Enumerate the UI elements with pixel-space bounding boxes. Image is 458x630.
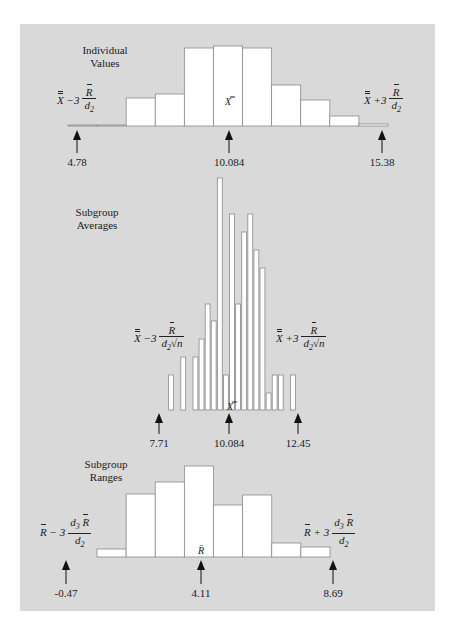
histogram-bar [272, 375, 277, 410]
individual-center-value: 10.084 [214, 156, 244, 168]
averages-lcl-value: 7.71 [149, 437, 168, 449]
histogram-bar [199, 339, 204, 410]
averages-lcl-formula: X −3Rd2√n [134, 324, 184, 354]
histogram-bar [266, 393, 271, 410]
ranges-ucl-value: 8.69 [323, 587, 342, 599]
histogram-bar [126, 98, 155, 126]
ranges-ucl-formula: R + 3d3 Rd2 [304, 516, 355, 551]
marker-arrow-icon [62, 560, 70, 570]
histogram-bar [243, 495, 272, 557]
histogram-bar [301, 100, 330, 126]
histogram-bar [169, 375, 174, 410]
histogram-bar [291, 375, 296, 410]
individual-lcl-value: 4.78 [67, 156, 86, 168]
histogram-bar [155, 94, 184, 126]
averages-ucl-formula: X +3Rd2√n [276, 324, 326, 354]
individual-lcl-formula: X −3Rd2 [57, 86, 96, 116]
ranges-lcl-formula: R − 3d3 Rd2 [40, 516, 91, 551]
histogram-bar [217, 178, 222, 410]
histogram-bar [184, 48, 213, 126]
histogram-bar [184, 466, 213, 557]
histogram-bar [230, 214, 235, 410]
individual-center-symbol: X̿ [225, 96, 231, 107]
histogram-bar [260, 268, 265, 410]
marker-arrow-icon [155, 413, 163, 423]
subgroup-averages-title: Subgroup Averages [57, 206, 137, 232]
ranges-center-symbol: R̄ [198, 545, 204, 556]
histogram-bar [278, 375, 283, 410]
ranges-center-value: 4.11 [192, 587, 211, 599]
histogram-bar [254, 250, 259, 410]
marker-arrow-icon [294, 413, 302, 423]
histogram-bar [213, 46, 242, 126]
individual-ucl-value: 15.38 [370, 156, 395, 168]
histogram-bar [236, 304, 241, 410]
averages-center-value: 10.084 [214, 437, 244, 449]
histogram-bar [205, 304, 210, 410]
histogram-bar [214, 505, 243, 557]
ranges-lcl-value: -0.47 [55, 587, 78, 599]
marker-arrow-icon [225, 130, 233, 140]
histogram-bar [97, 125, 126, 126]
histogram-bar [242, 232, 247, 410]
marker-arrow-icon [197, 560, 205, 570]
histogram-bar [155, 482, 184, 557]
marker-arrow-icon [329, 560, 337, 570]
histogram-bar [248, 214, 253, 410]
histogram-2 [169, 178, 296, 410]
averages-ucl-value: 12.45 [286, 437, 311, 449]
subgroup-ranges-title: Subgroup Ranges [66, 458, 146, 484]
histogram-bar [126, 494, 155, 557]
averages-center-symbol: X̿ [227, 401, 233, 412]
marker-arrow-icon [73, 130, 81, 140]
histogram-bar [181, 357, 186, 410]
histogram-bar [243, 48, 272, 126]
individual-ucl-formula: X +3Rd2 [364, 86, 403, 116]
histogram-bar [272, 543, 301, 557]
histogram-bar [272, 85, 301, 126]
histogram-bar [211, 321, 216, 410]
histogram-bar [68, 125, 97, 126]
histogram-bar [359, 124, 388, 126]
individual-values-title: Individual Values [60, 44, 150, 70]
histogram-bar [193, 357, 198, 410]
histogram-bar [330, 116, 359, 126]
marker-arrow-icon [378, 130, 386, 140]
histogram-bar [97, 549, 126, 557]
marker-arrow-icon [225, 413, 233, 423]
